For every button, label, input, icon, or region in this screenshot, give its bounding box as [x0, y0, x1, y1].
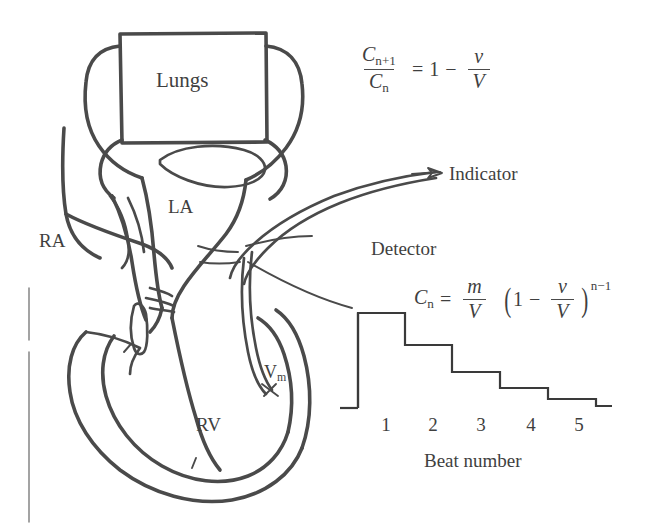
- ratio-one: 1: [429, 58, 439, 81]
- ratio-right-den-text: V: [473, 70, 485, 92]
- heart-diagram-drawing: [0, 0, 660, 529]
- ratio-num-sub: n+1: [375, 53, 396, 68]
- equation-ratio: Cn+1 Cn = 1 − v V: [352, 44, 495, 95]
- conc-inner-num: v: [553, 276, 572, 299]
- wall-tick-a: [124, 344, 131, 352]
- conc-exponent: n−1: [591, 278, 611, 294]
- conc-lhs-base: C: [414, 286, 427, 308]
- av-junction: [146, 288, 174, 312]
- conc-den: V: [463, 299, 485, 323]
- ratio-right-fraction: v V: [468, 46, 490, 92]
- right-ventricle-label: RV: [196, 414, 221, 436]
- conc-inner-fraction: v V: [551, 276, 573, 322]
- conc-inner-den: V: [551, 299, 573, 323]
- ratio-left-fraction: Cn+1 Cn: [357, 44, 401, 95]
- conc-fraction: m V: [462, 276, 486, 322]
- ratio-numerator: Cn+1: [357, 44, 401, 69]
- ratio-right-num: v: [469, 46, 488, 69]
- right-atrium-wall: [63, 128, 100, 258]
- ratio-equals: =: [412, 58, 423, 81]
- indicator-leader-line: [412, 172, 440, 174]
- left-atrium-roof: [160, 146, 265, 187]
- ratio-minus: −: [445, 58, 456, 81]
- chart-tick-3: 3: [468, 414, 494, 436]
- right-atrium-label: RA: [39, 230, 65, 252]
- ratio-num-base: C: [362, 43, 375, 65]
- catheter-branch-b: [200, 262, 240, 264]
- catheter-outer: [230, 172, 436, 278]
- chart-step-series: [358, 313, 612, 408]
- conc-equals: =: [440, 288, 451, 311]
- conc-inner-num-text: v: [558, 275, 567, 297]
- left-atrium-label: LA: [168, 196, 193, 218]
- ventricle-volume-label: Vm: [264, 362, 286, 385]
- pulmonary-left-outer: [85, 46, 142, 178]
- septal-band: [172, 318, 220, 470]
- paren-open: (: [504, 286, 511, 313]
- conc-den-text: V: [468, 300, 480, 322]
- ventricle-volume-sub: m: [277, 370, 286, 384]
- chart-x-axis-title: Beat number: [424, 450, 522, 472]
- ratio-den-sub: n: [382, 80, 389, 95]
- equation-concentration: Cn = m V ( 1 − v V ) n−1: [414, 276, 611, 322]
- ventricle-volume-base: V: [264, 362, 277, 382]
- conc-inner-one: 1: [513, 288, 523, 311]
- indicator-label: Indicator: [449, 163, 518, 185]
- chart-tick-4: 4: [518, 414, 544, 436]
- detector-leader-line: [248, 262, 352, 308]
- conc-num: m: [462, 276, 486, 299]
- chart-tick-2: 2: [420, 414, 446, 436]
- ratio-right-num-text: v: [474, 45, 483, 67]
- figure-canvas: Lungs RA LA RV Vm Indicator Detector Cn+…: [0, 0, 660, 529]
- conc-inner-minus: −: [529, 288, 540, 311]
- detector-label: Detector: [371, 238, 436, 260]
- septum: [150, 308, 162, 332]
- conc-lhs: Cn: [414, 286, 434, 312]
- wall-tick-b: [192, 458, 196, 468]
- conc-parenthetical: ( 1 − v V ) n−1: [502, 276, 612, 322]
- paren-close: ): [581, 286, 588, 313]
- ratio-right-den: V: [468, 69, 490, 93]
- conc-inner-den-text: V: [556, 300, 568, 322]
- pulmonary-right-outer: [246, 46, 303, 180]
- pulmonary-left-inner: [100, 140, 122, 198]
- chart-tick-5: 5: [566, 414, 592, 436]
- catheter-branch-a: [198, 246, 238, 252]
- lungs-label: Lungs: [156, 68, 209, 93]
- ratio-denominator: Cn: [364, 69, 394, 95]
- conc-lhs-sub: n: [427, 296, 434, 311]
- chart-tick-1: 1: [373, 414, 399, 436]
- ratio-den-base: C: [369, 70, 382, 92]
- conc-num-text: m: [467, 275, 481, 297]
